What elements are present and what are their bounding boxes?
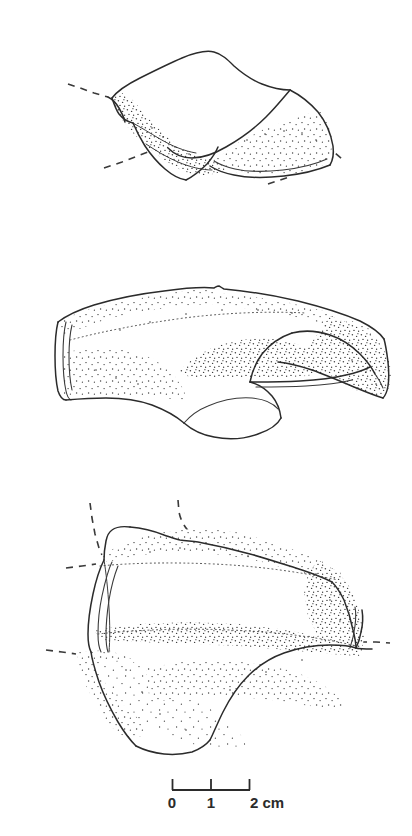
illustration-plate: 0 1 2 cm (0, 0, 412, 836)
scale-label-0: 0 (168, 794, 176, 811)
scale-label-1: 1 (207, 794, 215, 811)
scale-label-2: 2 cm (250, 794, 284, 811)
drawing-canvas: 0 1 2 cm (0, 0, 412, 836)
